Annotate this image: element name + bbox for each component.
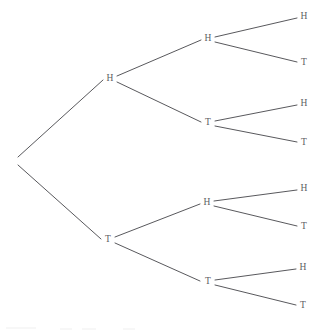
node-label-HHH: H: [299, 12, 308, 22]
node-label-THH: H: [299, 184, 308, 194]
tree-branches-canvas: [0, 0, 326, 331]
node-label-H: H: [105, 74, 114, 84]
branch-T-to-TH: [115, 204, 200, 237]
branch-TH-to-THT: [214, 206, 297, 226]
node-label-HH: H: [203, 34, 212, 44]
node-label-HTH: H: [299, 99, 308, 109]
branch-root-to-H: [18, 80, 103, 157]
branch-H-to-HH: [117, 40, 201, 76]
branch-T-to-TT: [115, 243, 200, 281]
node-label-HT: T: [204, 118, 212, 128]
node-label-HTT: T: [300, 138, 308, 148]
probability-tree-figure: HTHTHTHTHTHTHT: [0, 0, 326, 331]
node-label-TH: H: [202, 198, 211, 208]
branch-TH-to-THH: [214, 190, 297, 201]
branch-HH-to-HHT: [215, 42, 297, 62]
node-label-THT: T: [300, 222, 308, 232]
scan-artifact: [6, 327, 36, 329]
branch-line-group: [18, 18, 297, 305]
node-label-TT: T: [204, 277, 212, 287]
scan-artifact: [123, 328, 135, 330]
scan-artifact: [60, 328, 72, 330]
branch-TT-to-TTH: [215, 269, 296, 280]
node-label-TTT: T: [299, 301, 307, 311]
branch-HH-to-HHH: [215, 18, 297, 37]
branch-root-to-T: [18, 165, 101, 239]
node-label-HHT: T: [300, 58, 308, 68]
branch-HT-to-HTT: [215, 126, 297, 142]
scan-artifact: [82, 328, 96, 330]
node-label-T: T: [104, 235, 112, 245]
branch-TT-to-TTT: [215, 285, 296, 305]
branch-HT-to-HTH: [215, 105, 297, 121]
node-label-TTH: H: [298, 263, 307, 273]
branch-H-to-HT: [117, 82, 201, 122]
